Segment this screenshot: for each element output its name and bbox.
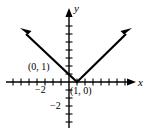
curve-right-arrowhead	[121, 28, 133, 35]
point-label-y-intercept: (0, 1)	[28, 62, 50, 72]
x-tick-label-negative-2: −2	[35, 85, 46, 95]
point-label-x-intercept: (1, 0)	[70, 86, 92, 96]
absolute-value-curve	[20, 28, 132, 82]
curve-left-arrowhead	[20, 28, 32, 35]
coordinate-plane	[0, 0, 148, 135]
graph-figure: x y −2 −2 (0, 1) (1, 0)	[0, 0, 148, 135]
y-tick-label-negative-2: −2	[50, 101, 61, 111]
y-axis-label: y	[74, 3, 79, 14]
x-axis-label: x	[138, 77, 143, 88]
